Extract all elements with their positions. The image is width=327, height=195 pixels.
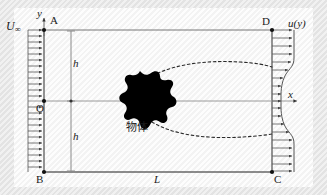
corner-label-a: A [50, 15, 58, 26]
outlet-profile-label: u(y) [288, 18, 306, 29]
height-dimension-line [67, 31, 75, 171]
origin-label: O [36, 103, 44, 114]
corner-label-b: B [36, 174, 43, 185]
inlet-velocity-subscript: ∞ [15, 24, 21, 34]
length-label: L [154, 174, 160, 185]
height-label-upper: h [73, 58, 79, 69]
x-axis-label: x [288, 89, 293, 100]
node-A [42, 28, 46, 32]
body-label: 物体 [126, 122, 148, 133]
corner-label-c: C [274, 174, 281, 185]
node-D [270, 28, 274, 32]
height-label-lower: h [73, 131, 79, 142]
inlet-velocity-symbol: U [6, 19, 15, 33]
wake-boundary-lower [152, 122, 272, 138]
diagram-canvas [0, 0, 327, 195]
corner-label-d: D [262, 16, 270, 27]
figure-root: U∞ y x A O B C D u(y) h h L 物体 [0, 0, 327, 195]
y-axis-label: y [37, 8, 42, 19]
dim-mid-dot [69, 99, 72, 102]
inlet-velocity-label: U∞ [6, 20, 21, 34]
wake-boundary-upper [144, 62, 272, 81]
